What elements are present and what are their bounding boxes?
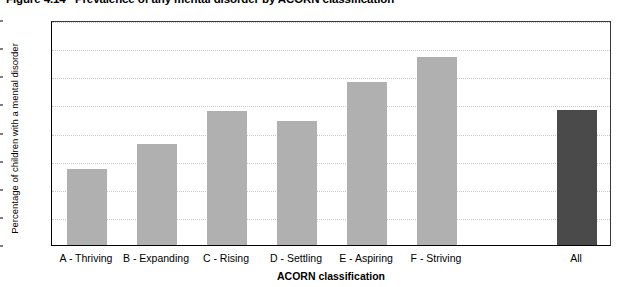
bar-e-aspiring — [347, 82, 387, 245]
y-tick-mark — [0, 49, 3, 50]
y-tick-mark — [0, 217, 3, 218]
gridline — [52, 219, 610, 220]
gridline — [52, 106, 610, 107]
y-tick-mark — [0, 161, 3, 162]
gridline — [52, 78, 610, 79]
bar-c-rising — [207, 111, 247, 245]
gridline — [52, 135, 610, 136]
bar-b-expanding — [137, 144, 177, 245]
x-tick-label: All — [570, 252, 582, 264]
x-tick-label: E - Aspiring — [339, 252, 393, 264]
gridline — [52, 191, 610, 192]
gridline — [52, 163, 610, 164]
bar-all — [557, 110, 597, 245]
x-axis-title: ACORN classification — [51, 270, 611, 282]
bar-a-thriving — [67, 169, 107, 245]
x-tick-label: A - Thriving — [60, 252, 113, 264]
y-tick-mark — [0, 246, 3, 247]
y-axis: Percentage of children with a mental dis… — [0, 0, 51, 287]
plot-area — [51, 21, 611, 246]
x-tick-label: F - Striving — [411, 252, 462, 264]
plot-inner — [52, 22, 610, 245]
figure-container: Figure 4.14 Prevalence of any mental dis… — [0, 0, 621, 287]
x-tick-label: D - Settling — [270, 252, 322, 264]
bar-f-striving — [417, 57, 457, 245]
y-tick-mark — [0, 189, 3, 190]
x-tick-label: B - Expanding — [123, 252, 189, 264]
y-tick-mark — [0, 133, 3, 134]
y-tick-mark — [0, 77, 3, 78]
gridline — [52, 22, 610, 23]
bar-d-settling — [277, 121, 317, 245]
x-tick-label: C - Rising — [203, 252, 249, 264]
chart-title: Figure 4.14 Prevalence of any mental dis… — [6, 0, 606, 5]
y-axis-title: Percentage of children with a mental dis… — [9, 29, 20, 249]
y-tick-mark — [0, 21, 3, 22]
y-tick-mark — [0, 105, 3, 106]
gridline — [52, 50, 610, 51]
